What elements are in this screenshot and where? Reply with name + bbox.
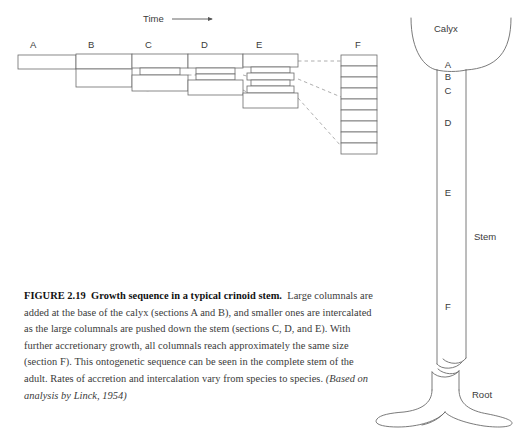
section-A: A [18, 39, 76, 69]
stem-mark-E: E [445, 187, 451, 198]
columnal-large [341, 99, 377, 110]
columnal-large [341, 77, 377, 88]
stem-mark-F: F [445, 301, 451, 312]
calyx-base [437, 70, 466, 72]
calyx-right-wall [466, 18, 511, 70]
section-C-label: C [145, 39, 152, 50]
section-E: E [243, 39, 298, 108]
columnal-large [76, 69, 132, 87]
stem-break-lower [432, 371, 459, 377]
root-lobe-left [376, 390, 445, 427]
section-E-label: E [256, 39, 262, 50]
columnal-large [18, 55, 76, 69]
columnal-large [341, 66, 377, 77]
calyx-label: Calyx [434, 23, 458, 34]
stem-mark-C: C [445, 85, 452, 96]
section-F: F [341, 39, 377, 154]
columnal-small [196, 68, 235, 74]
root-label: Root [472, 389, 492, 400]
section-D-label: D [201, 39, 208, 50]
columnal-large [76, 54, 132, 69]
columnal-small [196, 74, 235, 80]
columnal-small [247, 86, 294, 93]
section-D: D [188, 39, 243, 95]
figure-title: Growth sequence in a typical crinoid ste… [91, 290, 282, 301]
columnal-small [247, 73, 294, 80]
section-B: B [76, 39, 132, 87]
figure-number: FIGURE 2.19 [24, 290, 86, 301]
stem-mark-D: D [445, 117, 452, 128]
columnal-stack-F [341, 55, 377, 154]
columnal-small [251, 80, 290, 86]
columnal-large [243, 93, 298, 108]
columnal-small [140, 68, 180, 75]
correlation-line [298, 98, 341, 146]
crinoid-labels: Calyx Stem Root A B C D E F [434, 23, 496, 400]
section-B-label: B [88, 39, 94, 50]
time-axis: Time [143, 13, 212, 24]
columnal-large [341, 121, 377, 132]
section-F-label: F [355, 39, 361, 50]
columnal-large [341, 88, 377, 99]
stem-label: Stem [474, 231, 496, 242]
columnal-large [341, 132, 377, 143]
columnal-large [132, 75, 188, 91]
stem-break-upper-inner [443, 358, 466, 363]
columnal-large [341, 55, 377, 66]
columnal-large [341, 110, 377, 121]
columnal-small [251, 67, 290, 73]
stem-break-lower-inner [438, 369, 459, 374]
time-label: Time [143, 13, 164, 24]
columnal-large [341, 143, 377, 154]
stem-mark-B: B [445, 71, 451, 82]
figure-caption: FIGURE 2.19 Growth sequence in a typical… [24, 288, 376, 404]
columnal-large [132, 54, 188, 68]
columnal-large [243, 54, 298, 67]
correlation-line [298, 79, 341, 97]
figure-page: Time A B [0, 0, 525, 430]
columnal-large [188, 54, 243, 68]
figure-body: Large columnals are added at the base of… [24, 290, 373, 384]
section-C: C [132, 39, 188, 91]
stem-mark-A: A [445, 59, 452, 70]
section-A-label: A [30, 39, 37, 50]
columnal-large [188, 80, 243, 95]
